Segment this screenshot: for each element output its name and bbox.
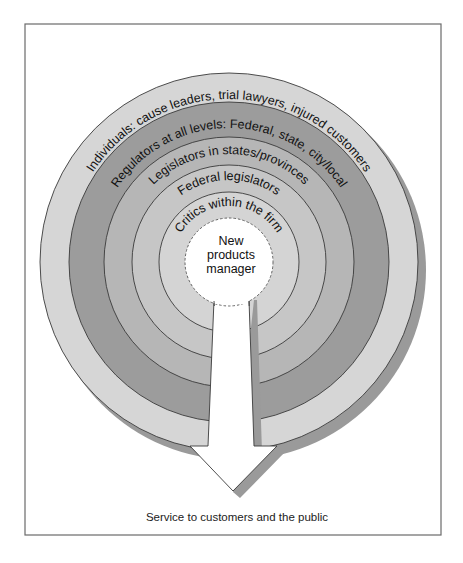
- center-label-line-3: manager: [206, 262, 255, 276]
- arrow-caption: Service to customers and the public: [146, 511, 328, 523]
- center-label-line-1: New: [218, 234, 244, 248]
- center-label-line-2: products: [207, 248, 255, 262]
- stakeholder-diagram: Individuals: cause leaders, trial lawyer…: [0, 0, 463, 563]
- arrow-joint: [215, 292, 248, 304]
